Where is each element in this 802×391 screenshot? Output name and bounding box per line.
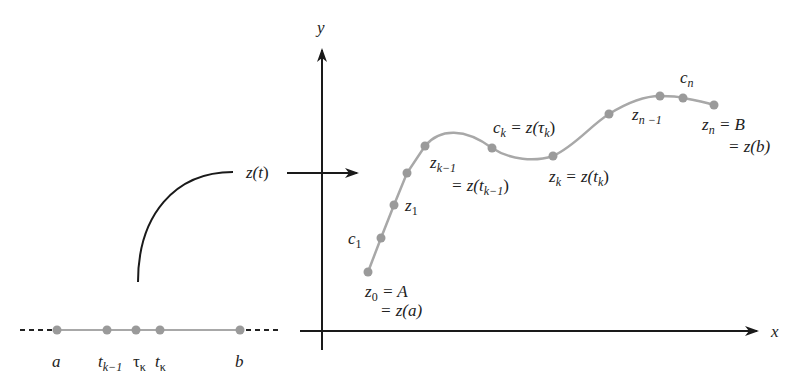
point-z1 bbox=[390, 201, 399, 210]
point-tau-k bbox=[132, 326, 141, 335]
label-b: b bbox=[235, 352, 244, 371]
label-z-k: zk = z(tk) bbox=[548, 167, 609, 189]
label-z-k-minus-1: zk−1 bbox=[429, 153, 456, 175]
contour-integral-diagram: a tk−1 τκ tκ b z(t) y x z0 = A = z(a) c1… bbox=[0, 0, 802, 391]
point-z2 bbox=[403, 169, 412, 178]
label-a: a bbox=[52, 352, 61, 371]
label-z-n-minus-1: zn −1 bbox=[631, 105, 662, 127]
point-z-k-plus-1 bbox=[605, 110, 614, 119]
label-t-k: tκ bbox=[155, 352, 166, 374]
mapping-label: z(t) bbox=[245, 163, 269, 182]
point-c-n bbox=[679, 94, 688, 103]
point-z-k bbox=[549, 152, 558, 161]
label-z-of-b: = z(b) bbox=[728, 137, 770, 156]
point-a bbox=[53, 326, 62, 335]
point-z-k-minus-1 bbox=[421, 142, 430, 151]
label-t-k-minus-1: tk−1 bbox=[98, 352, 122, 374]
point-c-k bbox=[488, 144, 497, 153]
label-tau-k: τκ bbox=[133, 352, 146, 374]
label-z1: z1 bbox=[404, 196, 418, 218]
parameter-interval: a tk−1 τκ tκ b bbox=[20, 326, 282, 375]
mapping-arc bbox=[138, 172, 233, 282]
y-axis-label: y bbox=[315, 18, 325, 37]
point-z-n-minus-1 bbox=[656, 92, 665, 101]
point-t-k-minus-1 bbox=[103, 326, 112, 335]
point-b bbox=[236, 326, 245, 335]
label-z-of-a: = z(a) bbox=[380, 301, 422, 320]
label-c-k: ck = z(τk) bbox=[493, 118, 555, 140]
x-axis-label: x bbox=[770, 322, 779, 341]
label-c-n: cn bbox=[680, 68, 694, 90]
label-z-of-t-k-minus-1: = z(tk−1) bbox=[451, 176, 509, 198]
point-t-k bbox=[156, 326, 165, 335]
label-z-n-equals-B: zn = B bbox=[701, 115, 746, 137]
point-z0 bbox=[364, 268, 373, 277]
label-c1: c1 bbox=[348, 229, 362, 251]
point-c1 bbox=[377, 234, 386, 243]
point-z-n bbox=[710, 101, 719, 110]
